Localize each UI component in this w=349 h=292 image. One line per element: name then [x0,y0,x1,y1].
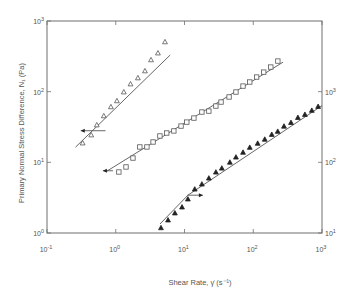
square-marker [254,75,258,79]
square-marker [241,84,245,88]
filled-triangle-marker [295,115,300,119]
square-marker [124,165,128,169]
filled-triangle-marker [172,211,177,215]
arrow-head-icon [199,193,203,197]
filled-triangle-marker [234,155,239,159]
arrow-head-icon [103,169,107,173]
filled-triangle-marker [303,112,308,116]
x-tick-label: 103 [316,244,327,253]
y-axis-label: Primary Normal Stress Difference, N₁ (Pa… [17,63,26,203]
open-triangle-marker [115,98,120,102]
data-markers [80,39,320,229]
filled-triangle-marker [262,137,267,141]
open-triangle-marker [80,141,85,145]
square-marker [151,140,155,144]
filled-triangle-marker [166,218,171,222]
y-left-tick-label: 101 [33,157,44,166]
y-right-tick-label: 102 [325,157,336,166]
filled-triangle-marker [289,120,294,124]
open-triangle-marker [136,75,141,79]
axis-ticks [47,21,322,233]
open-triangle-marker [149,57,154,61]
filled-triangle-marker [227,160,232,164]
filled-triangle-marker [241,150,246,154]
x-tick-label: 10-1 [40,244,53,253]
filled-triangle-marker [316,104,321,108]
square-marker [248,80,252,84]
arrow-head-icon [81,129,85,133]
open-triangle-marker [143,68,148,72]
square-marker [165,131,169,135]
plot-frame [47,21,322,233]
square-marker [214,104,218,108]
filled-triangle-marker [282,124,287,128]
open-triangle-marker [108,104,113,108]
x-tick-label: 102 [247,244,258,253]
square-marker [234,90,238,94]
x-axis-label: Shear Rate, γ̇ (s⁻¹) [168,278,231,287]
square-marker [172,129,176,133]
square-marker [227,95,231,99]
filled-triangle-marker [199,182,204,186]
x-tick-label: 101 [178,244,189,253]
square-marker [179,124,183,128]
open-triangle-marker [156,51,161,55]
fit-line [76,55,171,147]
filled-triangle-marker [192,187,197,191]
open-triangle-marker [121,89,126,93]
square-marker [138,145,142,149]
log-log-chart: 10-1100101102103100101102103101102103 [0,0,349,292]
fit-lines [76,55,323,224]
y-left-tick-label: 102 [33,87,44,96]
filled-triangle-marker [269,132,274,136]
square-marker [276,59,280,63]
filled-triangle-marker [180,205,185,209]
square-marker [117,170,121,174]
filled-triangle-marker [247,145,252,149]
y-right-tick-label: 103 [325,87,336,96]
filled-triangle-marker [275,129,280,133]
axis-arrows [81,129,203,197]
filled-triangle-marker [219,166,224,170]
square-marker [145,145,149,149]
square-marker [269,65,273,69]
y-left-tick-label: 100 [33,228,44,237]
filled-triangle-marker [159,225,164,229]
square-marker [131,156,135,160]
open-triangle-marker [101,113,106,117]
open-triangle-marker [163,39,168,43]
y-right-tick-label: 101 [325,228,336,237]
open-triangle-marker [128,81,133,85]
filled-triangle-marker [255,141,260,145]
square-marker [219,100,223,104]
tick-labels: 10-1100101102103100101102103101102103 [33,16,336,253]
filled-triangle-marker [206,176,211,180]
square-marker [192,116,196,120]
square-marker [207,109,211,113]
square-marker [262,70,266,74]
y-left-tick-label: 103 [33,16,44,25]
filled-triangle-marker [309,108,314,112]
square-marker [200,110,204,114]
x-tick-label: 100 [109,244,120,253]
square-marker [158,134,162,138]
filled-triangle-marker [213,170,218,174]
square-marker [185,120,189,124]
